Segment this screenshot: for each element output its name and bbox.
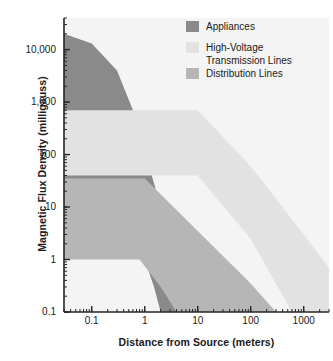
legend-label: Distribution Lines bbox=[206, 67, 283, 80]
y-tick-label: 100 bbox=[4, 149, 56, 160]
x-axis-title: Distance from Source (meters) bbox=[64, 336, 329, 348]
x-tick-label: 1 bbox=[123, 315, 167, 326]
x-tick-label: 100 bbox=[229, 315, 273, 326]
y-tick-label: 1 bbox=[4, 254, 56, 265]
legend-item[interactable]: Distribution Lines bbox=[186, 67, 283, 80]
legend-swatch-icon bbox=[186, 68, 199, 79]
x-tick-label: 0.1 bbox=[70, 315, 114, 326]
legend-label: High-Voltage Transmission Lines bbox=[206, 41, 292, 67]
y-tick-label: 1,000 bbox=[4, 96, 56, 107]
legend-label: Appliances bbox=[206, 20, 255, 33]
legend-item[interactable]: Appliances bbox=[186, 20, 255, 33]
chart-figure: Distance from Source (meters) Magnetic F… bbox=[0, 0, 333, 361]
legend-item[interactable]: High-Voltage Transmission Lines bbox=[186, 41, 292, 67]
y-tick-label: 10,000 bbox=[4, 44, 56, 55]
legend-swatch-icon bbox=[186, 42, 199, 53]
legend-swatch-icon bbox=[186, 21, 199, 32]
y-tick-label: 0.1 bbox=[4, 306, 56, 317]
y-tick-label: 10 bbox=[4, 201, 56, 212]
x-tick-label: 10 bbox=[176, 315, 220, 326]
x-tick-label: 1000 bbox=[282, 315, 326, 326]
